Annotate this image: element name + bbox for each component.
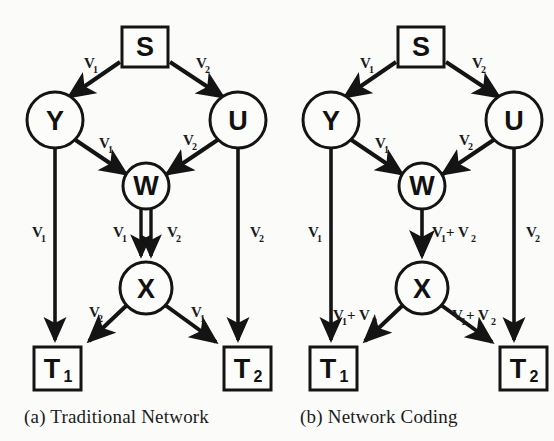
node-b-t2-label: T [510, 354, 527, 384]
panel-a: S Y U W X T 1 T 2 V 1 [27, 27, 271, 390]
node-b-x-label: X [413, 274, 431, 304]
svg-text:2: 2 [535, 233, 540, 244]
svg-text:1: 1 [317, 233, 322, 244]
svg-text:+ V: + V [446, 224, 469, 240]
edge-label-b-u-t2: V 2 [526, 224, 540, 244]
edge-label-a-y-w: V 1 [99, 135, 113, 155]
edge-label-a-u-w: V 2 [183, 132, 197, 152]
edge-label-a-w-x-right: V 2 [167, 224, 181, 244]
edge-label-b-x-t2: V 1 + V 2 [452, 307, 496, 327]
edge-label-b-y-w: V 1 [375, 135, 389, 155]
edge-label-a-s-u: V 2 [196, 55, 210, 75]
node-b-s-label: S [412, 32, 430, 62]
node-b-w-label: W [409, 171, 435, 201]
svg-text:+ V: + V [347, 307, 370, 323]
svg-text:2: 2 [468, 141, 473, 152]
edge-label-b-u-w: V 2 [459, 132, 473, 152]
svg-text:2: 2 [372, 316, 377, 327]
node-b-u-label: U [504, 106, 524, 136]
svg-text:1: 1 [384, 144, 389, 155]
svg-text:2: 2 [98, 313, 103, 324]
node-b-t1-label: T [320, 354, 337, 384]
svg-text:2: 2 [481, 64, 486, 75]
svg-text:1: 1 [41, 233, 46, 244]
edge-label-a-u-t2: V 2 [250, 224, 264, 244]
svg-text:1: 1 [93, 64, 98, 75]
panel-b-caption: (b) Network Coding [300, 406, 458, 428]
svg-text:1: 1 [200, 313, 205, 324]
svg-text:2: 2 [259, 233, 264, 244]
panel-b: S Y U W X T 1 T 2 V 1 [303, 27, 547, 390]
node-a-t2-subscript: 2 [254, 368, 263, 385]
node-a-x-label: X [137, 274, 155, 304]
edge-label-a-x-t1: V 2 [89, 304, 103, 324]
node-a-w-label: W [133, 171, 159, 201]
svg-text:2: 2 [176, 233, 181, 244]
edge-label-a-y-t1: V 1 [32, 224, 46, 244]
node-a-s-label: S [136, 32, 154, 62]
svg-text:+ V: + V [466, 307, 489, 323]
panel-a-caption: (a) Traditional Network [24, 406, 209, 428]
svg-text:2: 2 [471, 233, 476, 244]
node-a-u-label: U [228, 106, 248, 136]
node-a-y-label: Y [46, 106, 64, 136]
network-diagram-svg: S Y U W X T 1 T 2 V 1 [0, 0, 554, 441]
edge-label-a-x-t2: V 1 [191, 304, 205, 324]
edge-b-x-t1 [365, 305, 403, 341]
edge-label-b-s-y: V 1 [360, 55, 374, 75]
figure-canvas: S Y U W X T 1 T 2 V 1 [0, 0, 554, 441]
node-a-t2-label: T [234, 354, 251, 384]
svg-text:1: 1 [122, 233, 127, 244]
svg-text:2: 2 [192, 141, 197, 152]
edge-label-b-w-x: V 1 + V 2 [432, 224, 476, 244]
svg-text:2: 2 [205, 64, 210, 75]
node-b-t2-subscript: 2 [530, 368, 539, 385]
edge-label-b-y-t1: V 1 [308, 224, 322, 244]
edge-label-a-s-y: V 1 [84, 55, 98, 75]
node-b-t1-subscript: 1 [340, 368, 349, 385]
node-b-y-label: Y [322, 106, 340, 136]
svg-text:2: 2 [491, 316, 496, 327]
svg-text:1: 1 [108, 144, 113, 155]
node-a-t1-label: T [44, 354, 61, 384]
node-a-t1-subscript: 1 [64, 368, 73, 385]
svg-text:1: 1 [369, 64, 374, 75]
edge-label-b-s-u: V 2 [472, 55, 486, 75]
edge-label-b-x-t1: V 1 + V 2 [333, 307, 377, 327]
edge-label-a-w-x-left: V 1 [113, 224, 127, 244]
